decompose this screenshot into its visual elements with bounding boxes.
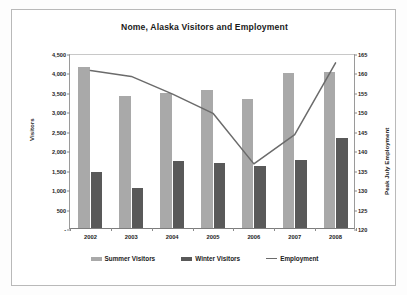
chart-legend: Summer VisitorsWinter VisitorsEmployment	[12, 255, 397, 262]
y-tick-left-label: 1,000	[52, 188, 66, 194]
legend-item-winter-visitors: Winter Visitors	[181, 255, 240, 262]
bar-winter-2007	[295, 160, 307, 228]
y-tick-right-mark	[354, 74, 357, 75]
x-tick-mark	[70, 228, 71, 231]
bar-summer-2002	[78, 67, 90, 228]
y-tick-left-mark	[67, 191, 70, 192]
x-tick-mark	[233, 228, 234, 231]
bar-winter-2006	[254, 166, 266, 228]
plot-area: 4,5004,0003,5003,0002,5002,0001,5001,000…	[69, 54, 355, 229]
y-tick-right-label: 145	[358, 130, 367, 136]
x-tick-label-2007: 2007	[288, 234, 301, 240]
y-tick-right-label: 160	[358, 71, 367, 77]
y-tick-left-label: -	[64, 227, 66, 233]
chart-card: Nome, Alaska Visitors and Employment Vis…	[11, 9, 396, 286]
bar-swatch-light-icon	[91, 257, 102, 261]
x-tick-label-2004: 2004	[166, 234, 179, 240]
y-tick-left-label: 3,500	[52, 91, 66, 97]
chart-image: Nome, Alaska Visitors and Employment Vis…	[0, 0, 407, 295]
y-tick-right-mark	[354, 55, 357, 56]
y-tick-left-mark	[67, 93, 70, 94]
legend-item-employment: Employment	[266, 255, 318, 262]
legend-item-summer-visitors: Summer Visitors	[91, 255, 156, 262]
y-tick-right-mark	[354, 132, 357, 133]
x-tick-mark	[193, 228, 194, 231]
y-tick-right-label: 165	[358, 52, 367, 58]
x-tick-mark	[152, 228, 153, 231]
bar-winter-2005	[214, 163, 226, 228]
bar-winter-2003	[132, 188, 144, 228]
y-tick-left-mark	[67, 74, 70, 75]
line-swatch-icon	[266, 258, 277, 260]
x-tick-label-2003: 2003	[125, 234, 138, 240]
bar-summer-2006	[242, 99, 254, 228]
x-tick-mark	[315, 228, 316, 231]
y-tick-left-mark	[67, 152, 70, 153]
bar-summer-2008	[324, 72, 336, 228]
y-tick-right-label: 150	[358, 110, 367, 116]
y-tick-left-mark	[67, 55, 70, 56]
y-tick-right-mark	[354, 93, 357, 94]
y-tick-right-label: 135	[358, 169, 367, 175]
y-tick-right-mark	[354, 113, 357, 114]
plot-inner	[70, 55, 354, 228]
y-tick-right-label: 130	[358, 188, 367, 194]
y-tick-right-mark	[354, 210, 357, 211]
y-tick-right-label: 125	[358, 208, 367, 214]
y-tick-right-mark	[354, 152, 357, 153]
y-tick-right-label: 120	[358, 227, 367, 233]
x-tick-label-2008: 2008	[329, 234, 342, 240]
y-tick-left-label: 3,000	[52, 110, 66, 116]
y-tick-left-mark	[67, 113, 70, 114]
bar-summer-2004	[160, 93, 172, 228]
y-tick-left-label: 2,000	[52, 149, 66, 155]
y-tick-left-mark	[67, 132, 70, 133]
legend-label: Winter Visitors	[195, 255, 240, 262]
legend-label: Employment	[280, 255, 318, 262]
y-tick-left-label: 4,500	[52, 52, 66, 58]
x-tick-label-2005: 2005	[207, 234, 220, 240]
y-tick-left-mark	[67, 171, 70, 172]
bar-swatch-dark-icon	[181, 257, 192, 261]
bar-winter-2002	[91, 172, 103, 228]
y-tick-right-mark	[354, 191, 357, 192]
legend-label: Summer Visitors	[105, 255, 156, 262]
bar-winter-2008	[336, 138, 348, 228]
x-tick-mark	[111, 228, 112, 231]
bar-summer-2005	[201, 90, 213, 228]
y-axis-label-right: Peak July Employment	[383, 128, 390, 195]
x-tick-label-2002: 2002	[84, 234, 97, 240]
x-tick-mark	[356, 228, 357, 231]
y-tick-left-label: 4,000	[52, 71, 66, 77]
bar-winter-2004	[173, 161, 185, 228]
y-tick-left-label: 2,500	[52, 130, 66, 136]
x-tick-label-2006: 2006	[247, 234, 260, 240]
y-tick-right-mark	[354, 171, 357, 172]
x-tick-mark	[274, 228, 275, 231]
y-tick-right-label: 155	[358, 91, 367, 97]
y-tick-left-mark	[67, 210, 70, 211]
y-tick-right-label: 140	[358, 149, 367, 155]
y-tick-left-label: 1,500	[52, 169, 66, 175]
bar-summer-2003	[119, 96, 131, 228]
y-axis-label-left: Visitors	[28, 118, 35, 141]
chart-title: Nome, Alaska Visitors and Employment	[12, 22, 397, 32]
bar-summer-2007	[283, 73, 295, 228]
y-tick-left-label: 500	[57, 208, 66, 214]
